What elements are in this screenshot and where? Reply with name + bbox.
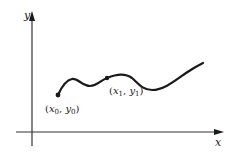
x-axis-label: x	[215, 136, 222, 149]
y-axis-label: y	[23, 9, 31, 22]
point-x0-y0-marker	[56, 93, 61, 98]
function-curve-diagram: y x (x0, y0) (x1, y1)	[0, 0, 236, 154]
point-x1-y1-marker	[105, 76, 109, 80]
point-label-x0-y0: (x0, y0)	[45, 103, 80, 116]
point-label-x1-y1: (x1, y1)	[109, 85, 144, 98]
x-axis-arrowhead-icon	[214, 129, 224, 135]
